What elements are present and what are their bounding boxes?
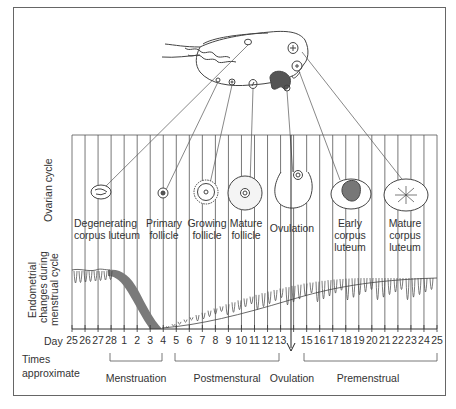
- stage-label-early-cl: Early corpus luteum: [330, 217, 370, 253]
- day-tick-label: 19: [353, 334, 365, 346]
- stage-text: Mature: [228, 217, 264, 229]
- ovarian-cycle-label: Ovarian cycle: [42, 158, 54, 222]
- day-tick-label: 5: [173, 334, 179, 346]
- day-tick-label: 20: [366, 334, 378, 346]
- day-axis-label: Day: [44, 334, 63, 348]
- day-tick-label: 17: [327, 334, 339, 346]
- phase-postmenstrual: Postmenstural: [193, 372, 260, 384]
- day-tick-label: 18: [340, 334, 352, 346]
- connector-lines: [100, 45, 405, 192]
- day-tick-label: 12: [262, 334, 274, 346]
- stage-text: follicle: [228, 229, 264, 241]
- stage-text: Ovulation: [268, 222, 316, 234]
- day-tick-label: 25: [431, 334, 443, 346]
- stage-label-ovulation: Ovulation: [268, 222, 316, 234]
- day-tick-label: 7: [199, 334, 205, 346]
- day-tick-label: 6: [186, 334, 192, 346]
- stage-text: corpus luteum: [74, 229, 136, 241]
- times-label-2: approximate: [22, 366, 80, 380]
- ovulation-icon: [275, 172, 312, 208]
- stage-text: follicle: [144, 229, 184, 241]
- stage-label-mature-cl: Mature corpus luteum: [383, 217, 427, 253]
- stage-text: luteum: [383, 241, 427, 253]
- day-tick-label: 2: [134, 334, 140, 346]
- stage-text: Growing: [185, 217, 229, 229]
- diagram-graphics: [0, 0, 456, 409]
- day-tick-label: 3: [147, 334, 153, 346]
- day-tick-label: 24: [418, 334, 430, 346]
- stage-text: Mature: [383, 217, 427, 229]
- day-tick-label: 10: [236, 334, 248, 346]
- day-tick-label: 21: [379, 334, 391, 346]
- times-label-1: Times: [22, 352, 50, 366]
- day-tick-label: 16: [314, 334, 326, 346]
- stage-text: follicle: [185, 229, 229, 241]
- day-tick-label: 8: [212, 334, 218, 346]
- menstrual-shedding-band: [108, 270, 162, 329]
- phase-brackets: [110, 353, 437, 361]
- stage-text: luteum: [330, 241, 370, 253]
- day-tick-label: 22: [392, 334, 404, 346]
- day-tick-label: 4: [160, 334, 166, 346]
- day-tick-label: 13: [275, 334, 287, 346]
- day-tick-label: 11: [249, 334, 260, 346]
- stage-label-mature-follicle: Mature follicle: [228, 217, 264, 241]
- stage-text: corpus: [383, 229, 427, 241]
- stage-icons: [91, 171, 428, 212]
- phase-ovulation: Ovulation: [270, 372, 314, 384]
- stage-label-primary: Primary follicle: [144, 217, 184, 241]
- day-tick-label: 23: [405, 334, 417, 346]
- day-tick-label: 25: [66, 334, 78, 346]
- stage-label-degenerating: Degenerating corpus luteum: [74, 217, 136, 241]
- stage-text: corpus: [330, 229, 370, 241]
- ovary-illustration: [162, 31, 308, 91]
- day-tick-label: 15: [301, 334, 313, 346]
- day-tick-label: 9: [226, 334, 232, 346]
- endometrial-label-3: menstrual cycle: [48, 253, 60, 326]
- day-tick-label: 26: [79, 334, 91, 346]
- day-tick-label: 1: [121, 334, 127, 346]
- phase-menstruation: Menstruation: [106, 372, 167, 384]
- stage-text: Degenerating: [74, 217, 136, 229]
- degenerating-corpus-luteum-icon: [91, 185, 111, 199]
- day-tick-label: 28: [105, 334, 117, 346]
- stage-label-growing: Growing follicle: [185, 217, 229, 241]
- stage-text: Primary: [144, 217, 184, 229]
- stage-text: Early: [330, 217, 370, 229]
- day-tick-label: 27: [92, 334, 104, 346]
- phase-premenstrual: Premenstrual: [337, 372, 399, 384]
